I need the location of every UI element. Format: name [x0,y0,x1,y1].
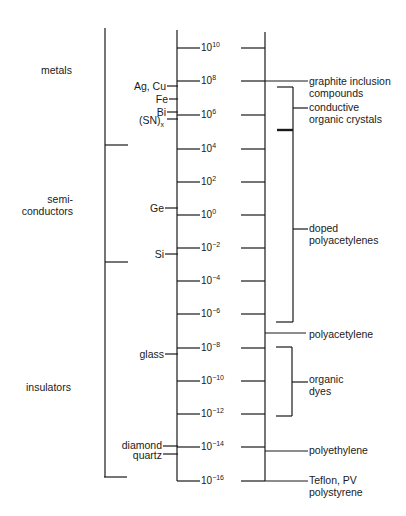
tick-1e-12: 10−12 [201,409,224,419]
polymer-conductive-crystals-line2: organic crystals [309,113,382,125]
polymer-graphite-line1: graphite inclusion [309,75,391,87]
tick-1e10: 1010 [201,43,220,53]
material-fe: Fe [100,93,168,105]
material-sn-x: (SN)x [100,114,164,131]
polymer-graphite-line2: compounds [309,87,363,99]
polymer-teflon-line1: Teflon, PV [309,474,357,486]
tick-1e0: 100 [201,210,216,220]
tick-1e4: 104 [201,144,216,154]
category-insulators: insulators [26,381,71,393]
polymer-polyethylene: polyethylene [309,444,368,456]
tick-1e-4: 10−4 [201,276,220,286]
tick-1e-8: 10−8 [201,343,220,353]
polymer-conductive-crystals-line1: conductive [309,101,359,113]
material-ag-cu: Ag, Cu [100,80,166,92]
tick-1e-16: 10−16 [201,476,224,486]
polymer-polyacetylene: polyacetylene [309,328,373,340]
polymer-teflon-line2: polystyrene [309,486,363,498]
tick-1e8: 108 [201,76,216,86]
tick-1e2: 102 [201,177,216,187]
category-semiconductors-line1: semi- [20,193,73,205]
tick-1e6: 106 [201,110,216,120]
category-semiconductors-line2: conductors [20,205,73,217]
material-quartz: quartz [100,449,162,461]
tick-1e-14: 10−14 [201,442,224,452]
material-ge: Ge [100,202,164,214]
polymer-organic-dyes-line1: organic [309,373,343,385]
tick-1e-6: 10−6 [201,309,220,319]
category-metals: metals [41,64,72,76]
tick-1e-2: 10−2 [201,243,220,253]
material-si: Si [100,248,164,260]
material-glass: glass [100,348,164,360]
polymer-doped-polyacetylenes-line2: polyacetylenes [309,234,378,246]
polymer-organic-dyes-line2: dyes [309,385,331,397]
tick-1e-10: 10−10 [201,376,224,386]
polymer-doped-polyacetylenes-line1: doped [309,222,338,234]
